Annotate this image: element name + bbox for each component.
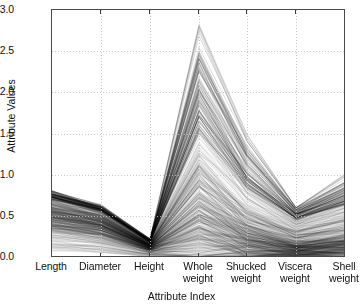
plot-area — [51, 9, 345, 257]
x-tick-mark-top — [100, 10, 101, 14]
y-tick-label: 1.0 — [0, 169, 14, 180]
x-tick-mark — [198, 253, 199, 257]
y-tick-label: 3.0 — [0, 4, 14, 15]
x-tick-mark-top — [198, 10, 199, 14]
x-tick-mark — [246, 253, 247, 257]
x-tick-mark — [149, 253, 150, 257]
parallel-coordinates-figure: Attribute Values 0.00.51.01.52.02.53.0 L… — [0, 0, 363, 308]
y-tick-label: 2.0 — [0, 86, 14, 97]
x-tick-mark — [295, 253, 296, 257]
x-axis-label: Attribute Index — [0, 290, 363, 302]
y-tick-label: 0.5 — [0, 210, 14, 221]
x-tick-label: Shell weight — [308, 261, 363, 284]
x-tick-mark-top — [295, 10, 296, 14]
y-tick-label: 2.5 — [0, 45, 14, 56]
y-tick-label: 1.5 — [0, 128, 14, 139]
series-canvas — [52, 10, 345, 257]
x-tick-mark-top — [149, 10, 150, 14]
y-tick-label: 0.0 — [0, 251, 14, 262]
x-tick-mark — [100, 253, 101, 257]
x-tick-mark-top — [246, 10, 247, 14]
y-axis-label: Attribute Values — [5, 61, 17, 171]
